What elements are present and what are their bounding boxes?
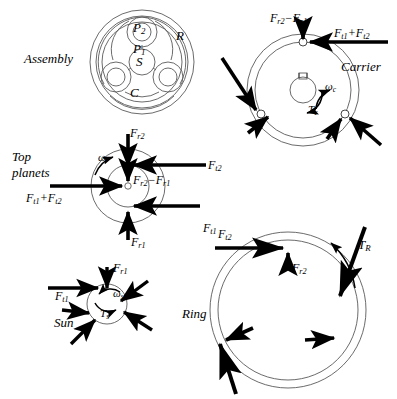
ring-diagram bbox=[210, 227, 366, 394]
planet-net-tangential-label: Ft1+Ft2 bbox=[26, 192, 62, 206]
planet-fr2-label: Fr2 bbox=[130, 127, 145, 141]
planet-fr1-label: Fr1 bbox=[131, 236, 146, 250]
carrier-gear-label: C bbox=[130, 86, 139, 99]
planet-ft2-label: Ft2 bbox=[208, 159, 222, 173]
ring-force-arrow-lower-left bbox=[220, 344, 236, 394]
carrier-caption: Carrier bbox=[341, 60, 381, 73]
carrier-force-arrow-lower-right bbox=[350, 118, 381, 145]
top-planets-caption-line1: Top bbox=[12, 150, 31, 163]
carrier-force-arrow-lower-left bbox=[222, 58, 256, 110]
assembly-caption: Assembly bbox=[24, 52, 73, 65]
carrier-omega-label: ωc bbox=[325, 81, 336, 93]
carrier-outer-circle bbox=[247, 34, 359, 146]
sun-force-arrow-right-upper bbox=[121, 281, 148, 301]
ring-fr2-label: Fr2 bbox=[292, 262, 307, 276]
planet-ft1-label: Ft1 bbox=[203, 222, 217, 236]
sun-torque-label: Ts bbox=[100, 308, 109, 320]
carrier-tangential-force-label: Ft1+Ft2 bbox=[334, 27, 370, 41]
carrier-radial-arrow-lower-right bbox=[327, 119, 341, 139]
top-planets-caption-line2: planets bbox=[12, 166, 50, 179]
sun-fr1-label: Fr1 bbox=[113, 262, 128, 276]
sun-ft1-label: Ft1 bbox=[55, 290, 69, 304]
planet-omega-label: ω bbox=[98, 152, 106, 163]
ring-radial-arrow-right bbox=[305, 338, 334, 340]
sun-diagram bbox=[48, 267, 152, 344]
planet-center-pin bbox=[125, 183, 131, 189]
sun-force-arrow-lower-left bbox=[71, 320, 95, 344]
ring-torque-label: TR bbox=[358, 238, 371, 253]
ring-caption: Ring bbox=[182, 307, 207, 320]
sun-gear-label: S bbox=[136, 55, 143, 68]
carrier-hub bbox=[290, 77, 316, 103]
sun-omega-label: ωs bbox=[113, 288, 124, 300]
carrier-radial-force-label: Fr2−Fr1 bbox=[270, 12, 307, 26]
sun-caption: Sun bbox=[54, 316, 74, 329]
ring-radial-arrow-lower-left bbox=[226, 328, 253, 340]
planet-net-radial-label: Fr2−Fr1 bbox=[133, 174, 170, 188]
ring-gear-label: R bbox=[176, 29, 184, 42]
carrier-pin-joints bbox=[257, 38, 349, 118]
top-planets-diagram bbox=[50, 134, 206, 240]
planet2-label: P2 bbox=[133, 21, 145, 36]
carrier-torque-label: Tc bbox=[308, 104, 317, 116]
sun-force-arrow-left bbox=[62, 310, 89, 313]
sun-force-arrow-right-lower bbox=[124, 312, 152, 330]
ring-ft2-label: Ft2 bbox=[218, 228, 232, 242]
diagram-canvas: Assembly R P2 P1 S C Carrier Fr2−Fr1 Ft1… bbox=[0, 0, 397, 399]
carrier-key bbox=[299, 73, 307, 79]
